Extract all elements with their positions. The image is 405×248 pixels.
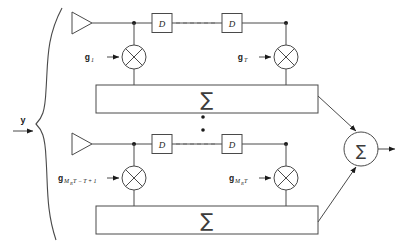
gain-subscript: M: [234, 178, 241, 184]
antenna-amplifier-bottom: [72, 133, 92, 155]
summation-symbol: ∑: [201, 88, 214, 110]
gain-symbol: g: [58, 173, 63, 183]
block-diagram: D D: [0, 0, 405, 248]
figure-canvas: D D: [0, 0, 405, 248]
output-summer: ∑: [344, 132, 378, 166]
delay-block-label: D: [228, 140, 236, 150]
gain-symbol: g: [85, 52, 90, 62]
delay-block-bottom-2: D: [222, 135, 242, 154]
output-summation-symbol: ∑: [356, 142, 366, 160]
gain-subscript: 1: [91, 57, 94, 63]
multiplier-top-2: [274, 45, 298, 69]
summation-bar-top: ∑: [96, 85, 318, 113]
branch-ellipsis: [201, 115, 205, 132]
multiplier-bottom-1: [122, 166, 146, 190]
gain-label-top-2: g T: [238, 52, 248, 63]
delay-block-top-1: D: [152, 14, 172, 33]
multiplier-bottom-2: [274, 166, 298, 190]
gain-subscript-tail: T − T + 1: [73, 178, 97, 184]
input-label: y: [20, 115, 25, 125]
gain-label-bottom-2: g M R T: [229, 173, 248, 186]
gain-symbol: g: [238, 52, 243, 62]
delay-block-label: D: [158, 19, 166, 29]
gain-subscript: M: [63, 178, 70, 184]
gain-symbol: g: [229, 173, 234, 183]
delay-block-label: D: [228, 19, 236, 29]
delay-block-bottom-1: D: [152, 135, 172, 154]
input-brace: [36, 8, 62, 240]
multiplier-top-1: [122, 45, 146, 69]
gain-subscript: T: [244, 57, 248, 63]
gain-label-bottom-1: g M R T − T + 1: [58, 173, 97, 186]
summation-bar-bottom: ∑: [96, 206, 318, 234]
gain-label-top-1: g 1: [85, 52, 94, 63]
summation-symbol: ∑: [201, 209, 214, 231]
branch-bottom: D D: [72, 133, 356, 234]
delay-block-label: D: [158, 140, 166, 150]
antenna-amplifier-top: [72, 12, 92, 34]
gain-subscript-tail: T: [244, 178, 248, 184]
delay-block-top-2: D: [222, 14, 242, 33]
branch-top: D D: [72, 12, 356, 131]
